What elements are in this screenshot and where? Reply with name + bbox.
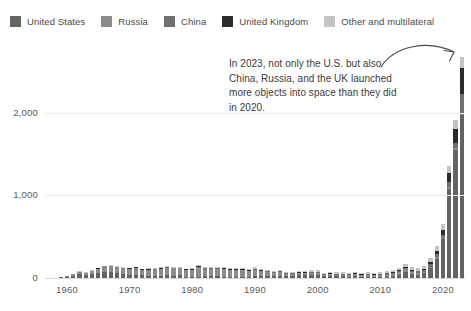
bar-1992[interactable] [265, 270, 269, 278]
bar-1997[interactable] [297, 271, 301, 278]
bar-2015[interactable] [410, 267, 414, 278]
bar-2016[interactable] [416, 268, 420, 278]
bar-2012[interactable] [391, 270, 395, 278]
bar-1975[interactable] [159, 267, 163, 278]
bar-segment-russia-1982 [203, 269, 207, 277]
bar-segment-us-2023 [460, 115, 464, 278]
x-tick-label-2000: 2000 [307, 284, 329, 295]
bar-segment-russia-1978 [178, 268, 182, 275]
bar-1998[interactable] [303, 271, 307, 278]
bar-1981[interactable] [196, 265, 200, 278]
bar-segment-russia-1987 [234, 270, 238, 277]
x-tick-label-1980: 1980 [181, 284, 203, 295]
bar-1968[interactable] [115, 266, 119, 278]
bar-segment-us-2018 [428, 268, 432, 278]
bar-2019[interactable] [435, 246, 439, 278]
legend-label-uk: United Kingdom [239, 16, 308, 27]
bar-segment-us-2021 [447, 189, 451, 278]
bar-1990[interactable] [253, 267, 257, 278]
bar-segment-us-2019 [435, 259, 439, 278]
bar-1993[interactable] [272, 271, 276, 278]
bar-1973[interactable] [146, 268, 150, 278]
bar-1970[interactable] [127, 268, 131, 278]
y-tick-label-0: 0 [33, 272, 38, 283]
bar-segment-russia-1984 [215, 269, 219, 276]
legend-item-russia[interactable]: Russia [101, 16, 148, 27]
legend-label-us: United States [27, 16, 85, 27]
bar-segment-china-2023 [460, 94, 464, 113]
curved-arrow-icon [378, 40, 464, 74]
bar-segment-uk-2022 [453, 129, 457, 143]
bar-2000[interactable] [316, 270, 320, 278]
bar-1976[interactable] [165, 266, 169, 278]
legend-label-china: China [181, 16, 206, 27]
bar-2011[interactable] [385, 271, 389, 278]
bar-segment-russia-1975 [159, 269, 163, 276]
x-tick-label-1970: 1970 [119, 284, 141, 295]
gridline-1000 [45, 195, 465, 196]
bar-segment-other-2021 [447, 166, 451, 173]
chart-legend: United StatesRussiaChinaUnited KingdomOt… [10, 14, 450, 28]
legend-label-other: Other and multilateral [341, 16, 434, 27]
bar-1965[interactable] [96, 268, 100, 278]
bar-segment-russia-1981 [196, 267, 200, 277]
bar-segment-russia-1973 [146, 270, 150, 277]
legend-item-us[interactable]: United States [10, 16, 85, 27]
bar-2021[interactable] [447, 166, 451, 278]
y-tick-label-1000: 1,000 [13, 189, 38, 200]
bar-2017[interactable] [422, 266, 426, 278]
bar-segment-russia-1986 [228, 270, 232, 277]
legend-label-russia: Russia [118, 16, 148, 27]
bar-1986[interactable] [228, 268, 232, 278]
legend-item-china[interactable]: China [164, 16, 206, 27]
bar-1980[interactable] [190, 268, 194, 278]
bar-1972[interactable] [140, 269, 144, 278]
bar-segment-other-2022 [453, 120, 457, 129]
bar-1984[interactable] [215, 267, 219, 278]
legend-item-uk[interactable]: United Kingdom [222, 16, 308, 27]
bar-segment-russia-1979 [184, 270, 188, 277]
bar-2018[interactable] [428, 258, 432, 278]
bar-segment-russia-1983 [209, 269, 213, 276]
bar-2020[interactable] [441, 224, 445, 278]
bar-1966[interactable] [102, 266, 106, 278]
legend-item-other[interactable]: Other and multilateral [324, 16, 434, 27]
bar-1964[interactable] [90, 270, 94, 278]
bar-2014[interactable] [403, 264, 407, 278]
bar-1987[interactable] [234, 268, 238, 278]
bar-1983[interactable] [209, 267, 213, 278]
bar-segment-russia-1976 [165, 268, 169, 276]
bar-2013[interactable] [397, 268, 401, 278]
bar-segment-uk-2021 [447, 173, 451, 182]
x-tick-label-1990: 1990 [244, 284, 266, 295]
x-tick-label-2010: 2010 [369, 284, 391, 295]
bar-2022[interactable] [453, 120, 457, 278]
bar-1977[interactable] [171, 267, 175, 278]
x-tick-label-2020: 2020 [432, 284, 454, 295]
bar-1985[interactable] [222, 267, 226, 278]
space-launches-chart: United StatesRussiaChinaUnited KingdomOt… [0, 0, 471, 311]
legend-swatch-other [324, 16, 335, 27]
bar-2023[interactable] [460, 57, 464, 278]
bar-1967[interactable] [109, 265, 113, 278]
bar-segment-us-2020 [441, 239, 445, 278]
bar-1982[interactable] [203, 267, 207, 278]
bar-1999[interactable] [309, 270, 313, 278]
bar-1969[interactable] [121, 267, 125, 278]
bar-1994[interactable] [278, 270, 282, 278]
y-tick-label-2000: 2,000 [13, 107, 38, 118]
bar-segment-russia-1988 [240, 270, 244, 277]
bar-1971[interactable] [134, 267, 138, 278]
bar-1988[interactable] [240, 268, 244, 278]
bar-segment-russia-1985 [222, 269, 226, 276]
legend-swatch-china [164, 16, 175, 27]
legend-swatch-russia [101, 16, 112, 27]
legend-swatch-us [10, 16, 21, 27]
bar-1978[interactable] [178, 267, 182, 278]
bar-1989[interactable] [247, 269, 251, 278]
bar-1991[interactable] [259, 269, 263, 278]
bar-segment-russia-1980 [190, 270, 194, 277]
bar-1979[interactable] [184, 269, 188, 278]
bar-1974[interactable] [153, 268, 157, 278]
bar-1962[interactable] [77, 271, 81, 278]
